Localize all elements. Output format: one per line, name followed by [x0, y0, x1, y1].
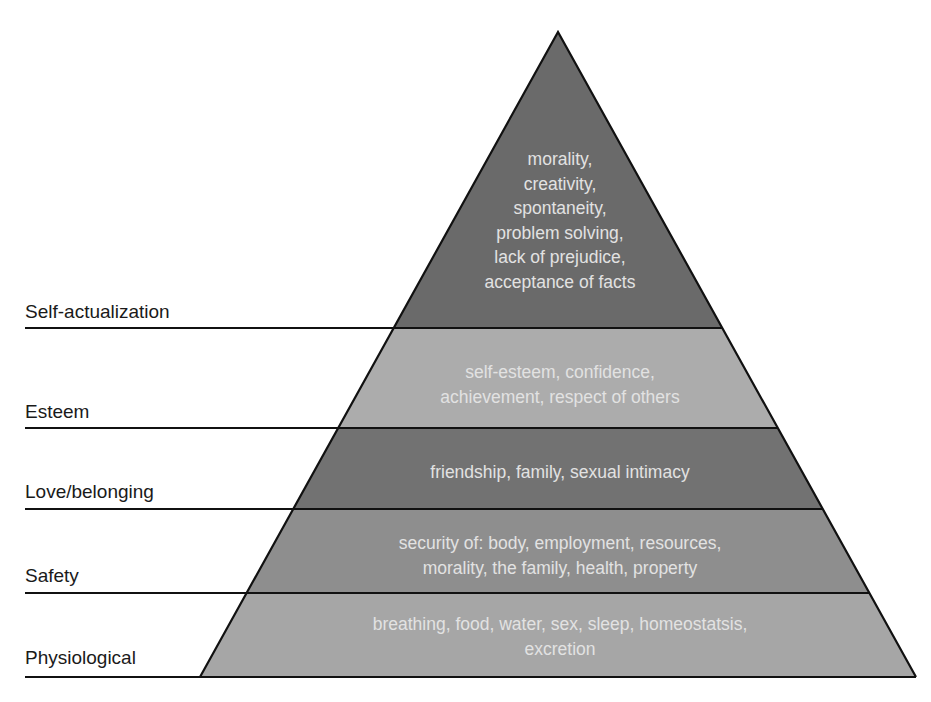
tier-label-esteem: Esteem	[25, 401, 89, 422]
tier-description-self-actualization: acceptance of facts	[485, 272, 636, 292]
tier-description-esteem: self-esteem, confidence,	[465, 362, 655, 382]
pyramid-tier-fills	[200, 32, 916, 677]
tier-description-self-actualization: lack of prejudice,	[494, 247, 625, 267]
tier-description-self-actualization: creativity,	[524, 174, 597, 194]
tier-label-self-actualization: Self-actualization	[25, 301, 170, 322]
tier-labels: Self-actualizationEsteemLove/belongingSa…	[25, 301, 170, 668]
tier-description-self-actualization: spontaneity,	[513, 198, 606, 218]
maslow-pyramid-diagram: Self-actualizationEsteemLove/belongingSa…	[0, 0, 931, 702]
tier-label-safety: Safety	[25, 565, 79, 586]
tier-description-love-belonging: friendship, family, sexual intimacy	[430, 462, 690, 482]
tier-label-love-belonging: Love/belonging	[25, 481, 154, 502]
tier-description-safety: security of: body, employment, resources…	[399, 533, 722, 553]
tier-label-physiological: Physiological	[25, 647, 136, 668]
tier-description-self-actualization: morality,	[528, 149, 593, 169]
tier-description-esteem: achievement, respect of others	[440, 387, 680, 407]
tier-description-safety: morality, the family, health, property	[423, 558, 698, 578]
tier-description-physiological: excretion	[524, 639, 595, 659]
tier-physiological	[200, 593, 916, 677]
tier-description-physiological: breathing, food, water, sex, sleep, home…	[373, 614, 748, 634]
tier-description-self-actualization: problem solving,	[496, 223, 623, 243]
